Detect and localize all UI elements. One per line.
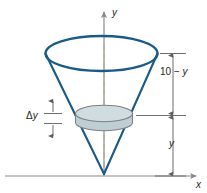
height-above-slab-label: 10 − y: [160, 67, 188, 77]
delta-glyph: Δ: [26, 110, 33, 121]
height-variable: y: [183, 66, 188, 77]
slab-thickness-label: Δy: [26, 111, 38, 121]
delta-variable: y: [33, 110, 38, 121]
slab-cross-section: [76, 105, 133, 130]
x-axis-label: x: [196, 180, 201, 190]
dimension-slab-thickness: [44, 101, 62, 136]
diagram-canvas: [0, 0, 207, 193]
cone-top-rim: [46, 36, 158, 71]
depth-variable: y: [169, 138, 174, 149]
height-number: 10: [160, 66, 171, 77]
cone-volume-diagram: y x 10 − y y Δy: [0, 0, 207, 193]
y-axis-label: y: [112, 8, 117, 18]
depth-below-slab-label: y: [169, 139, 174, 149]
slab-top-face: [76, 105, 133, 121]
